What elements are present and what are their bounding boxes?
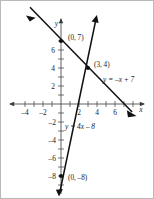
point-dot-0-neg8 — [59, 174, 63, 178]
x-axis-label: x — [138, 105, 143, 114]
point-label-3-4: (3, 4) — [94, 61, 110, 69]
y-tick-label-neg4: –4 — [48, 136, 57, 145]
y-axis-top-arrowhead — [59, 18, 63, 23]
line-2-bottom-arrowhead — [56, 189, 63, 197]
marked-points — [59, 39, 90, 178]
line-1-upper-left-arrowhead — [26, 13, 36, 22]
point-dot-0-7 — [59, 39, 63, 43]
x-tick-label-2: 2 — [77, 108, 81, 117]
point-dot-3-4 — [86, 66, 90, 70]
y-tick-label-2: 2 — [51, 82, 55, 91]
y-tick-label-6: 6 — [51, 46, 55, 55]
x-tick-label-neg4: –4 — [20, 108, 29, 117]
x-tick-label-6: 6 — [113, 108, 117, 117]
y-tick-label-neg2: –2 — [48, 118, 57, 127]
line-1-stroke — [30, 7, 132, 112]
x-tick-label-4: 4 — [95, 108, 99, 117]
line-1-lower-right-arrowhead — [125, 108, 136, 119]
coordinate-plane: –4 –2 2 4 6 6 4 2 –2 –4 –6 –8 y x (0, 7)… — [1, 1, 153, 198]
line-2-stroke — [60, 21, 96, 192]
equation-label-line-2: y = 4x – 8 — [64, 122, 95, 131]
y-axis-label: y — [54, 19, 59, 28]
graph-figure: –4 –2 2 4 6 6 4 2 –2 –4 –6 –8 y x (0, 7)… — [0, 0, 154, 199]
x-axis-left-arrowhead — [9, 102, 14, 106]
line-y-equals-neg-x-plus-7 — [26, 7, 137, 119]
equation-label-line-1: y = –x + 7 — [102, 75, 135, 84]
y-tick-label-neg6: –6 — [48, 154, 57, 163]
y-axis — [59, 18, 63, 194]
point-label-0-neg8: (0, –8) — [68, 174, 88, 182]
y-tick-label-neg8: –8 — [48, 172, 57, 181]
x-tick-label-neg2: –2 — [38, 108, 47, 117]
line-2-top-arrowhead — [92, 15, 99, 23]
point-label-0-7: (0, 7) — [68, 34, 84, 42]
y-tick-label-4: 4 — [51, 64, 55, 73]
